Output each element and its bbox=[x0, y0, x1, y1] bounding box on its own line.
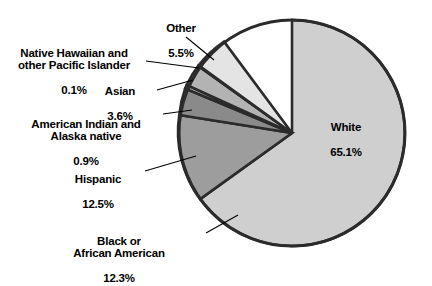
pie-label-hispanic-value: 12.5% bbox=[52, 198, 144, 211]
pie-label-native-hawaiian-name: Native Hawaiian and other Pacific Island… bbox=[4, 47, 144, 72]
pie-label-white-name: White bbox=[308, 121, 384, 134]
pie-label-black-or-african-american-value: 12.3% bbox=[36, 272, 202, 285]
pie-label-white-value: 65.1% bbox=[308, 146, 384, 159]
pie-label-other-value: 5.5% bbox=[139, 47, 223, 60]
pie-label-asian-name: Asian bbox=[84, 85, 156, 98]
pie-label-american-indian-name: American Indian and Alaska native bbox=[12, 118, 160, 143]
pie-label-hispanic-name: Hispanic bbox=[52, 173, 144, 186]
pie-label-other: Other 5.5% bbox=[139, 9, 223, 72]
pie-label-other-name: Other bbox=[139, 22, 223, 35]
pie-label-hispanic: Hispanic 12.5% bbox=[52, 160, 144, 223]
pie-label-black-or-african-american: Black or African American 12.3% bbox=[36, 222, 202, 286]
pie-label-white: White 65.1% bbox=[308, 108, 384, 171]
pie-label-black-or-african-american-name: Black or African American bbox=[36, 235, 202, 260]
